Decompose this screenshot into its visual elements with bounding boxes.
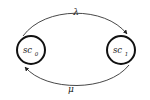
transition-label-mu: μ xyxy=(68,84,74,94)
state-label-sc0: sc xyxy=(23,45,32,55)
state-diagram: λ μ sc 0 sc 1 xyxy=(0,0,150,100)
transition-label-lambda: λ xyxy=(72,7,79,17)
state-node-sc0: sc 0 xyxy=(17,36,45,64)
state-label-sc1: sc xyxy=(113,45,122,55)
state-subscript-sc1: 1 xyxy=(125,51,129,57)
state-node-sc1: sc 1 xyxy=(107,36,135,64)
transition-arrow-mu xyxy=(25,65,129,86)
state-subscript-sc0: 0 xyxy=(35,51,39,57)
